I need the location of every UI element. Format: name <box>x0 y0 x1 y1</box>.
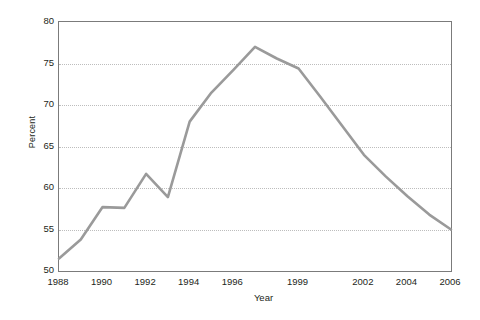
x-axis-tick-label: 2004 <box>383 275 429 289</box>
series-line <box>59 22 451 271</box>
x-axis-title: Year <box>75 292 452 303</box>
y-axis-tick-label: 50 <box>28 265 54 275</box>
x-axis-tick-labels: 198819901992199419961999200220042006 <box>0 275 480 291</box>
y-axis-tick-label: 65 <box>28 141 54 151</box>
x-axis-tick-label: 1988 <box>35 275 81 289</box>
y-axis-tick-label: 70 <box>28 99 54 109</box>
y-axis-tick-label: 55 <box>28 224 54 234</box>
y-axis-tick-label: 80 <box>28 16 54 26</box>
x-axis-tick-label: 1994 <box>166 275 212 289</box>
x-axis-tick-label: 2002 <box>340 275 386 289</box>
plot-area <box>58 21 452 272</box>
line-chart: Percent 50556065707580 19881990199219941… <box>0 0 480 320</box>
series-path <box>59 47 451 259</box>
y-axis-tick-label: 60 <box>28 182 54 192</box>
x-axis-tick-label: 1999 <box>275 275 321 289</box>
x-axis-tick-label: 2006 <box>427 275 473 289</box>
y-axis-tick-label: 75 <box>28 58 54 68</box>
y-axis-tick-labels: 50556065707580 <box>26 0 54 320</box>
x-axis-tick-label: 1990 <box>79 275 125 289</box>
x-axis-tick-label: 1992 <box>122 275 168 289</box>
x-axis-tick-label: 1996 <box>209 275 255 289</box>
